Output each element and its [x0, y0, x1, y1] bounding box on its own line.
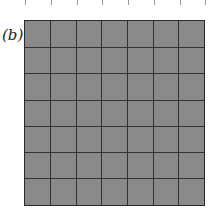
tick-mark — [154, 0, 155, 5]
grid-line-horizontal — [25, 47, 204, 48]
grid-line-horizontal — [25, 178, 204, 179]
grid-line-horizontal — [25, 152, 204, 153]
grid-line-horizontal — [25, 100, 204, 101]
figure-label: (b) — [2, 26, 23, 44]
tick-mark — [128, 0, 129, 5]
grid-line-horizontal — [25, 126, 204, 127]
square-grid — [24, 20, 205, 206]
tick-mark — [77, 0, 78, 5]
tick-mark — [205, 0, 206, 5]
tick-mark — [102, 0, 103, 5]
grid-line-horizontal — [25, 73, 204, 74]
tick-mark — [180, 0, 181, 5]
tick-mark — [25, 0, 26, 5]
tick-mark — [51, 0, 52, 5]
